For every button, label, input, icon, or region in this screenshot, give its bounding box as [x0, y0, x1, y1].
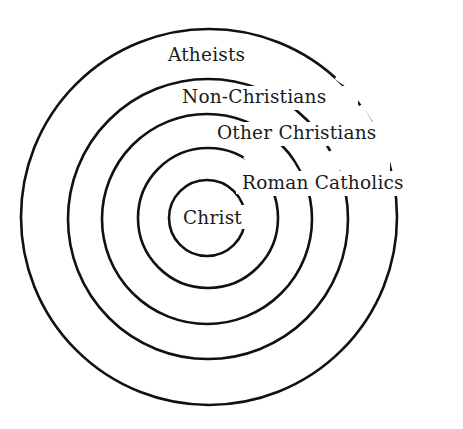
- label-non-christians: Non-Christians: [182, 86, 326, 107]
- labels: Atheists Non-Christians Other Christians…: [167, 44, 404, 228]
- concentric-circles-diagram: Atheists Non-Christians Other Christians…: [0, 0, 463, 429]
- label-atheists: Atheists: [167, 44, 245, 65]
- label-christ: Christ: [183, 207, 242, 228]
- label-other-christians: Other Christians: [217, 122, 377, 143]
- label-roman-catholics: Roman Catholics: [242, 172, 404, 193]
